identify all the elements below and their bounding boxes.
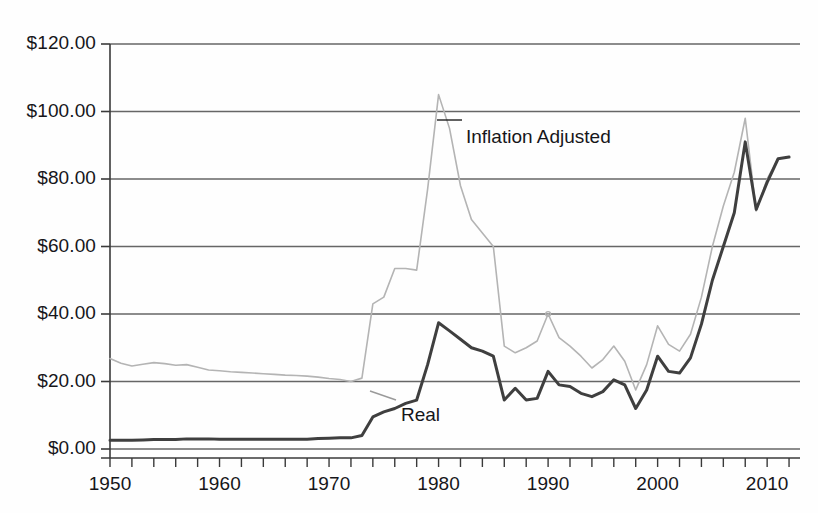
y-tick-label: $80.00 <box>37 167 96 189</box>
oil-price-chart-figure: $120.00$100.00$80.00$60.00$40.00$20.00$0… <box>0 0 818 513</box>
x-tick-label: 2010 <box>727 473 807 495</box>
data-series <box>110 95 789 441</box>
y-tick-label: $100.00 <box>27 100 96 122</box>
y-tick-label: $20.00 <box>37 370 96 392</box>
x-tick-label: 1970 <box>289 473 369 495</box>
series-line-inflation-adjusted <box>110 95 789 390</box>
annotation-leader-lines <box>370 120 462 400</box>
x-tick-label: 1960 <box>180 473 260 495</box>
y-tick-label: $60.00 <box>37 235 96 257</box>
x-tick-label: 2000 <box>618 473 698 495</box>
leader-line-real <box>370 391 396 400</box>
axis-lines <box>101 44 800 458</box>
series-line-real <box>110 142 789 440</box>
x-tick-label: 1990 <box>508 473 588 495</box>
real-label: Real <box>401 404 440 426</box>
x-tick-label: 1950 <box>70 473 150 495</box>
x-tick-label: 1980 <box>399 473 479 495</box>
gridlines <box>110 44 800 449</box>
inflation-adjusted-label: Inflation Adjusted <box>466 126 611 148</box>
x-axis-ticks <box>110 458 789 467</box>
y-tick-label: $40.00 <box>37 302 96 324</box>
y-tick-label: $120.00 <box>27 32 96 54</box>
y-tick-label: $0.00 <box>48 437 96 459</box>
chart-plot-area <box>0 0 818 513</box>
